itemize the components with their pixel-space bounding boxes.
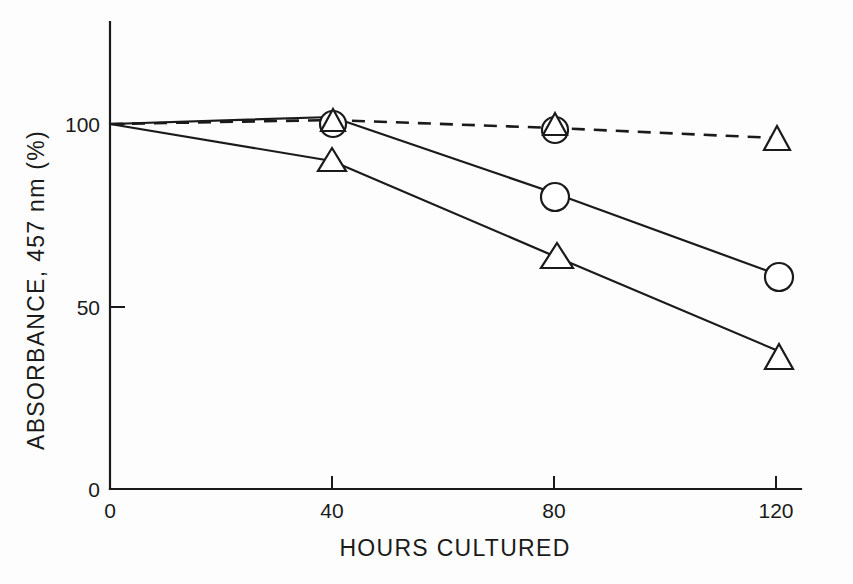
y-tick-label-0: 0: [88, 478, 100, 501]
markers-x120: [764, 126, 793, 369]
y-tick-marks: [110, 124, 125, 489]
x-tick-label-40: 40: [320, 499, 343, 522]
triangle-marker-x120-dashed: [764, 126, 790, 150]
x-tick-label-0: 0: [104, 499, 116, 522]
series-control-dashed-line: [110, 120, 776, 138]
absorbance-line-chart: 100 50 0 0 40 80 120 HOURS CULTURED ABSO…: [0, 0, 853, 584]
x-tick-label-80: 80: [542, 499, 565, 522]
x-tick-marks: [110, 476, 776, 489]
series-control-dashed: [110, 120, 776, 138]
x-axis-title: HOURS CULTURED: [339, 535, 570, 561]
x-tick-label-120: 120: [758, 499, 793, 522]
triangle-marker-x80-solid: [541, 243, 573, 268]
circle-marker-x80-solid: [541, 183, 569, 211]
circle-marker-x120-solid: [765, 263, 793, 291]
y-axis-title: ABSORBANCE, 457 nm (%): [23, 130, 49, 450]
chart-figure: 100 50 0 0 40 80 120 HOURS CULTURED ABSO…: [0, 0, 853, 584]
markers-x40: [318, 109, 346, 171]
y-tick-label-100: 100: [65, 113, 100, 136]
y-tick-label-50: 50: [77, 296, 100, 319]
axis-group: [110, 22, 801, 489]
markers-x80: [541, 113, 573, 268]
